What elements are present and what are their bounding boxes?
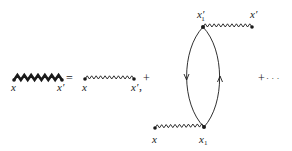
ellipsis: · · · [266, 73, 280, 83]
feynman-diagram: x x′ = x x′ , + x′1 x′ x1 x + · · · [0, 0, 292, 151]
thin-wavy-line-top [203, 24, 252, 27]
label-x-term1: x [81, 81, 87, 93]
label-x1-prime: x′1 [196, 8, 205, 23]
label-x1-sub: 1 [204, 139, 208, 147]
fermion-loop-right [203, 27, 220, 127]
thin-wavy-line-bottom [155, 124, 204, 128]
label-x1-prime-sub: 1 [201, 15, 205, 23]
vertex-dot-x1 [202, 125, 206, 129]
vertex-dot-x1-prime [201, 25, 205, 29]
fermion-loop-left [187, 27, 204, 127]
label-x-term2: x [151, 133, 157, 145]
plus-sign-2: + [258, 71, 265, 85]
vertex-dot-x [153, 126, 157, 130]
label-x-lhs: x [10, 81, 16, 93]
vertex-dot-x-prime [250, 25, 254, 29]
label-x-prime-lhs: x′ [56, 81, 65, 93]
thick-wavy-line [14, 75, 62, 80]
bare-propagator: x x′ , [81, 76, 142, 93]
label-x-prime-term2: x′ [249, 8, 258, 20]
label-x-prime-term1: x′ [130, 81, 139, 93]
thin-wavy-line [85, 76, 134, 79]
plus-sign-1: + [143, 71, 150, 85]
equals-sign: = [66, 71, 73, 85]
label-x1: x1 [198, 133, 208, 147]
dressed-propagator: x x′ [10, 75, 65, 93]
comma: , [139, 79, 142, 93]
one-loop-diagram: x′1 x′ x1 x [151, 8, 258, 147]
